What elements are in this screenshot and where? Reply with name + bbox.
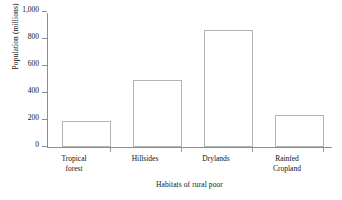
y-axis-line bbox=[47, 13, 48, 148]
y-tick-400: 400 bbox=[42, 92, 47, 93]
x-label-line-2: Cropland bbox=[251, 164, 323, 174]
x-tick-1 bbox=[110, 148, 111, 152]
x-label-line-1: Drylands bbox=[180, 154, 252, 164]
x-label-tropical-forest: Tropical forest bbox=[38, 154, 110, 174]
x-axis-line bbox=[47, 147, 332, 148]
x-label-drylands: Drylands bbox=[180, 154, 252, 164]
y-tick-200: 200 bbox=[42, 119, 47, 120]
y-tick-label-800: 800 bbox=[28, 32, 39, 41]
y-tick-label-400: 400 bbox=[28, 86, 39, 95]
y-tick-0: 0 bbox=[42, 146, 47, 147]
bar-chart: Population (millions) 0 200 400 600 800 … bbox=[0, 0, 342, 200]
x-axis-title: Habitats of rural poor bbox=[47, 180, 332, 189]
x-label-line-1: Hillsides bbox=[109, 154, 181, 164]
x-label-rainfed-cropland: Rainfed Cropland bbox=[251, 154, 323, 174]
x-tick-4 bbox=[323, 148, 324, 152]
x-label-line-1: Rainfed bbox=[251, 154, 323, 164]
bar-rainfed-cropland bbox=[275, 115, 324, 147]
y-tick-label-600: 600 bbox=[28, 59, 39, 68]
y-tick-800: 800 bbox=[42, 38, 47, 39]
y-tick-label-0: 0 bbox=[35, 140, 39, 149]
bar-drylands bbox=[204, 30, 253, 147]
bar-tropical-forest bbox=[62, 121, 111, 147]
bar-hillsides bbox=[133, 80, 182, 147]
x-tick-2 bbox=[181, 148, 182, 152]
y-axis-title: Population (millions) bbox=[11, 0, 20, 97]
x-label-hillsides: Hillsides bbox=[109, 154, 181, 164]
y-tick-label-1000: 1,000 bbox=[22, 5, 39, 14]
x-tick-3 bbox=[252, 148, 253, 152]
plot-area: 0 200 400 600 800 1,000 bbox=[47, 13, 332, 148]
y-tick-600: 600 bbox=[42, 65, 47, 66]
y-tick-label-200: 200 bbox=[28, 113, 39, 122]
x-label-line-1: Tropical bbox=[38, 154, 110, 164]
x-label-line-2: forest bbox=[38, 164, 110, 174]
y-tick-1000: 1,000 bbox=[42, 11, 47, 12]
